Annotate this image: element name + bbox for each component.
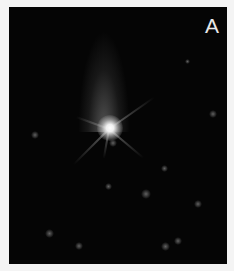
background-spot <box>209 110 217 118</box>
background-spot <box>109 139 117 147</box>
background-spot <box>75 242 83 250</box>
background-spot <box>31 131 39 139</box>
background-spot <box>45 229 54 238</box>
background-spot <box>185 59 190 64</box>
background-spot <box>161 242 170 251</box>
background-spot <box>194 200 202 208</box>
background-spot <box>105 183 112 190</box>
background-spot <box>141 189 151 199</box>
background-spot <box>161 165 168 172</box>
micrograph-panel: A <box>9 7 227 264</box>
panel-label: A <box>205 15 219 36</box>
background-spot <box>174 237 182 245</box>
cell-body <box>97 115 123 141</box>
